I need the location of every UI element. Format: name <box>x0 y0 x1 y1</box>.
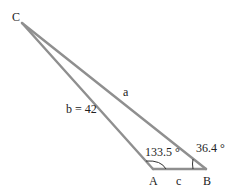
vertex-label-B: B <box>203 174 211 188</box>
side-label-c: c <box>176 174 181 188</box>
side-label-b: b = 42 <box>66 102 97 116</box>
angle-arc-B <box>193 159 194 169</box>
vertex-label-A: A <box>149 174 158 188</box>
side-label-a: a <box>123 85 129 99</box>
angle-label-A: 133.5 ° <box>145 145 180 159</box>
side-b <box>22 23 153 169</box>
angle-label-B: 36.4 ° <box>196 141 225 155</box>
vertex-label-C: C <box>12 10 20 24</box>
triangle-diagram: C A B a b = 42 c 133.5 ° 36.4 ° <box>0 0 233 193</box>
